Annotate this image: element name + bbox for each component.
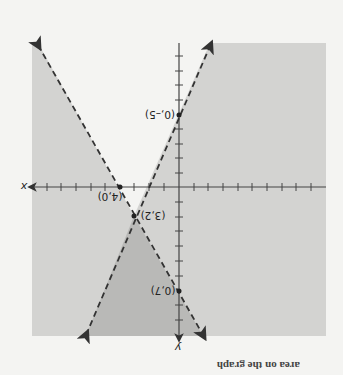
x-axis-label: x [20,180,28,193]
point-0-7 [177,289,182,294]
point-0-neg5 [177,113,182,118]
unshaded-top-strip [210,30,326,43]
label-4-0: (4,0) [98,191,123,203]
label-0-7: (0,7) [151,285,176,297]
point-3-2 [132,214,137,219]
graph-canvas: (0,–5) (4,0) (3,2) (0,7) x y [0,0,343,375]
point-4-0 [118,185,123,190]
y-axis-label: y [174,341,182,354]
label-0-neg5: (0,–5) [145,109,175,121]
label-3-2: (3,2) [141,210,166,222]
caption-text: area on the graph [150,358,300,372]
inequality-graph: (0,–5) (4,0) (3,2) (0,7) x y area on the… [0,0,343,375]
